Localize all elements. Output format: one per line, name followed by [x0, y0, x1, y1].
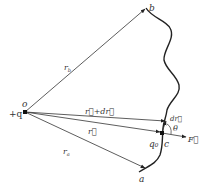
label-source-charge: +q — [9, 109, 23, 119]
test-charge-dot — [160, 131, 164, 135]
angle-arc-theta — [167, 124, 171, 134]
label-r-b: rb — [64, 63, 71, 73]
vector-r-b — [25, 9, 145, 112]
path-curve-a-to-b — [139, 8, 179, 172]
label-point-a: a — [139, 174, 144, 184]
label-r-a: ra — [63, 147, 70, 157]
source-charge-dot — [23, 110, 27, 114]
label-theta: θ — [173, 124, 178, 133]
label-test-charge: q₀ — [149, 139, 159, 149]
vector-force — [162, 133, 186, 137]
label-origin-o: o — [22, 99, 28, 109]
label-r-plus-dr: r⃗+dr⃗ — [85, 107, 114, 116]
label-dr: dr⃗ — [170, 115, 182, 123]
label-r: r⃗ — [88, 127, 97, 136]
electrostatic-work-diagram: o +q b a c q₀ rb ra r⃗+dr⃗ r⃗ dr⃗ θ F⃗ — [0, 0, 201, 189]
label-point-c: c — [164, 139, 169, 149]
label-force: F⃗ — [187, 135, 199, 144]
label-point-b: b — [149, 3, 155, 13]
vector-r-a — [25, 112, 145, 168]
